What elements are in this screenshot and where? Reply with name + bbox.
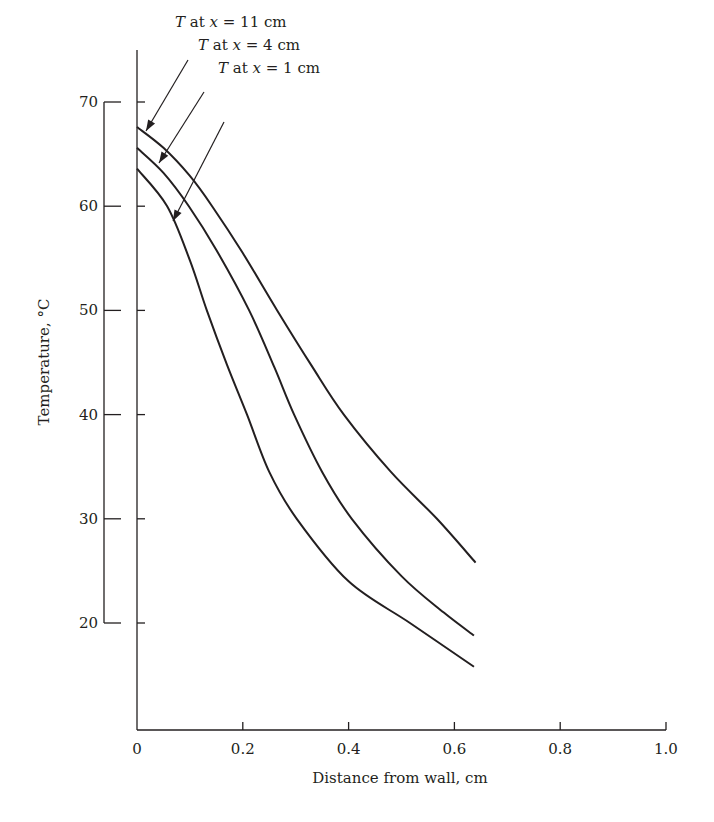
x-tick-label: 0.4	[337, 740, 361, 758]
curve-x4cm	[137, 148, 474, 636]
curve-label: T at x = 11 cm	[175, 13, 287, 31]
annotation-arrow	[146, 60, 188, 131]
x-tick-label: 0.2	[231, 740, 255, 758]
curve-annotations: T at x = 11 cmT at x = 4 cmT at x = 1 cm	[175, 13, 320, 77]
annotation-arrow	[159, 92, 204, 163]
curve-label: T at x = 4 cm	[198, 36, 300, 54]
curve-label: T at x = 1 cm	[218, 59, 320, 77]
x-axis-label: Distance from wall, cm	[312, 769, 487, 787]
y-tick-label: 30	[79, 510, 98, 528]
y-tick-label: 70	[79, 93, 98, 111]
y-tick-labels: 706050403020	[79, 93, 98, 632]
y-tick-label: 50	[79, 301, 98, 319]
y-bracket-axis	[104, 102, 121, 623]
arrowhead-icon	[146, 119, 155, 131]
data-curves	[137, 127, 476, 667]
y-axis-label: Temperature, °C	[35, 299, 53, 426]
arrowhead-icon	[173, 209, 182, 221]
x-tick-label: 0	[132, 740, 142, 758]
plot-axes	[137, 50, 666, 730]
y-tick-label: 40	[79, 406, 98, 424]
y-tick-label: 60	[79, 197, 98, 215]
annotation-arrows	[146, 60, 224, 221]
temperature-chart: 706050403020 00.20.40.60.81.0 T at x = 1…	[0, 0, 714, 822]
y-tick-label: 20	[79, 614, 98, 632]
arrowhead-icon	[159, 152, 168, 163]
x-tick-label: 0.8	[548, 740, 572, 758]
x-tick-label: 1.0	[654, 740, 678, 758]
x-tick-label: 0.6	[442, 740, 466, 758]
curve-x1cm	[137, 169, 474, 667]
x-tick-labels: 00.20.40.60.81.0	[132, 740, 678, 758]
annotation-arrow	[173, 122, 224, 221]
